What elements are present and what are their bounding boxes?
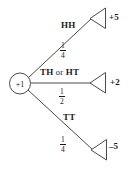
fraction-denominator: 4 bbox=[60, 52, 66, 60]
root-node-value: +1 bbox=[16, 80, 25, 89]
fraction-numerator: 1 bbox=[59, 88, 65, 96]
arrowhead-tt bbox=[91, 140, 107, 161]
arrowhead-th-or-ht bbox=[90, 73, 106, 94]
branch-probability-th-or-ht: 1 2 bbox=[59, 88, 65, 107]
branch-label-hh: HH bbox=[61, 21, 75, 30]
fraction-denominator: 2 bbox=[59, 98, 65, 106]
branch-label-part-second: HT bbox=[66, 67, 79, 77]
branch-label-part-first: TH bbox=[40, 67, 53, 77]
branch-label-conjunction: or bbox=[56, 67, 63, 77]
branch-label-tt: TT bbox=[63, 113, 75, 122]
fraction-numerator: 1 bbox=[60, 136, 66, 144]
fraction-numerator: 1 bbox=[60, 42, 66, 50]
payoff-value-th-or-ht: +2 bbox=[110, 78, 120, 87]
payoff-value-hh: +5 bbox=[109, 13, 119, 22]
probability-tree-diagram: +1 HH 1 4 TH or HT 1 2 TT 1 4 bbox=[0, 0, 129, 170]
branch-probability-hh: 1 4 bbox=[60, 42, 66, 61]
fraction-denominator: 4 bbox=[60, 146, 66, 154]
payoff-value-tt: –5 bbox=[109, 142, 118, 151]
branch-probability-tt: 1 4 bbox=[60, 136, 66, 155]
arrowhead-hh bbox=[90, 8, 106, 29]
branch-label-th-or-ht: TH or HT bbox=[40, 68, 79, 77]
